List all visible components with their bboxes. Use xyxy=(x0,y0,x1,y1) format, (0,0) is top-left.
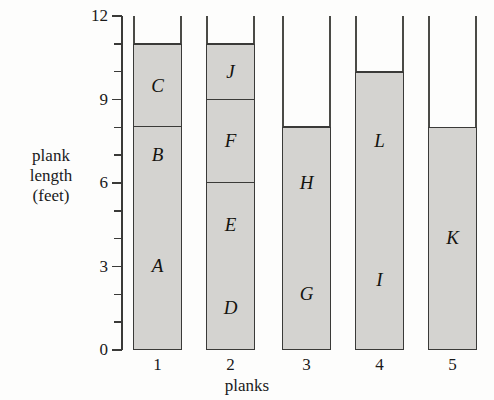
plank-column: IL xyxy=(355,16,404,350)
x-tick-label: 3 xyxy=(282,356,331,374)
y-tick-minor xyxy=(114,71,122,73)
segment-label: D xyxy=(224,298,238,317)
chart-figure: plank length (feet) 036912 ABCDEFJGHILK … xyxy=(0,0,494,400)
segment-label: G xyxy=(300,284,314,303)
y-tick-major xyxy=(112,266,122,268)
segment-label: C xyxy=(151,76,164,95)
segment-label: L xyxy=(374,131,385,150)
stack-segment: H xyxy=(283,126,330,237)
segment-label: F xyxy=(225,131,237,150)
segment-label: H xyxy=(300,173,314,192)
y-tick-minor xyxy=(114,154,122,156)
y-tick-minor xyxy=(114,127,122,129)
plank-column: K xyxy=(428,16,477,350)
plank-column: GH xyxy=(282,16,331,350)
segment-label: E xyxy=(225,215,237,234)
stack: IL xyxy=(355,72,404,350)
y-tick-major xyxy=(112,15,122,17)
y-tick-minor xyxy=(114,321,122,323)
stack-segment: I xyxy=(356,210,403,349)
y-tick-minor xyxy=(114,210,122,212)
stack-segment: G xyxy=(283,238,330,349)
stack-segment: C xyxy=(134,43,181,127)
stack-segment: J xyxy=(207,43,254,99)
x-axis-title: planks xyxy=(0,377,494,395)
y-tick-label: 6 xyxy=(82,174,108,191)
stack-segment: B xyxy=(134,126,181,182)
x-tick-label: 4 xyxy=(355,356,404,374)
x-tick-label: 2 xyxy=(206,356,255,374)
segment-label: K xyxy=(446,228,459,247)
stack: K xyxy=(428,127,477,350)
segment-label: B xyxy=(152,145,164,164)
plot-area: 036912 ABCDEFJGHILK 12345 xyxy=(0,0,494,400)
stack-segment: L xyxy=(356,71,403,210)
plank-column: DEFJ xyxy=(206,16,255,350)
y-tick-minor xyxy=(114,294,122,296)
x-tick-label: 1 xyxy=(133,356,182,374)
y-tick-major xyxy=(112,99,122,101)
segment-label: I xyxy=(376,270,382,289)
y-tick-minor xyxy=(114,238,122,240)
stack-segment: K xyxy=(429,126,476,349)
stack-segment: D xyxy=(207,266,254,350)
y-tick-major xyxy=(112,349,122,351)
y-tick-label: 12 xyxy=(82,7,108,24)
x-tick-label: 5 xyxy=(428,356,477,374)
stack-segment: F xyxy=(207,99,254,183)
stack: ABC xyxy=(133,44,182,350)
stack-segment: A xyxy=(134,182,181,349)
y-tick-label: 9 xyxy=(82,91,108,108)
stack: DEFJ xyxy=(206,44,255,350)
y-tick-label: 3 xyxy=(82,258,108,275)
y-tick-major xyxy=(112,182,122,184)
segment-label: J xyxy=(226,62,234,81)
plank-column: ABC xyxy=(133,16,182,350)
stack: GH xyxy=(282,127,331,350)
segment-label: A xyxy=(152,256,164,275)
y-tick-minor xyxy=(114,43,122,45)
stack-segment: E xyxy=(207,182,254,266)
y-tick-label: 0 xyxy=(82,341,108,358)
